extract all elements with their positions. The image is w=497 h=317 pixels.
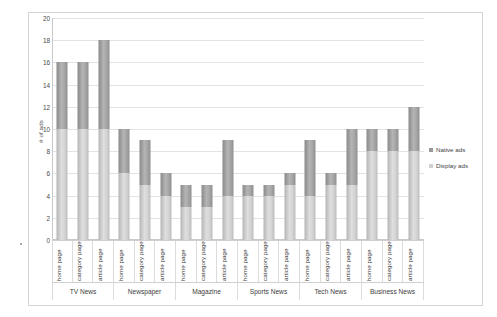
bar-slot (300, 18, 321, 240)
bar-segment-native-ads[interactable] (243, 185, 254, 196)
category-axis-label: home page (55, 250, 62, 281)
category-axis-cell: home page (52, 241, 73, 283)
bar-slot (197, 18, 218, 240)
bar-segment-display-ads[interactable] (346, 185, 357, 241)
bar-segment-display-ads[interactable] (387, 151, 398, 240)
legend-item-label: Native ads (436, 146, 465, 153)
bar-segment-display-ads[interactable] (325, 185, 336, 241)
bar-slot (383, 18, 404, 240)
bar-segment-native-ads[interactable] (263, 185, 274, 196)
category-axis-label: article page (406, 248, 413, 281)
legend-item-label: Display ads (436, 162, 468, 169)
category-axis-label: category page (137, 241, 144, 281)
group-axis-cell: Business News (362, 283, 424, 300)
category-axis-label: category page (199, 241, 206, 281)
category-axis-cell: category page (73, 241, 94, 283)
bar-segment-native-ads[interactable] (57, 62, 68, 129)
group-axis-label: Magazine (192, 288, 221, 295)
bar-segment-native-ads[interactable] (284, 173, 295, 184)
bars-layer (52, 18, 424, 240)
bar-segment-display-ads[interactable] (201, 207, 212, 240)
bar-slot (403, 18, 424, 240)
legend-swatch-icon (429, 148, 433, 152)
category-axis: home pagecategory pagearticle pagehome p… (52, 240, 424, 283)
bar-segment-display-ads[interactable] (98, 129, 109, 240)
y-axis-tick-18: 18 (43, 37, 50, 44)
plot-area (52, 18, 424, 240)
category-axis-cell: article page (341, 241, 362, 283)
bar-segment-display-ads[interactable] (77, 129, 88, 240)
group-axis-cell: Sports News (238, 283, 300, 300)
category-axis-label: article page (220, 248, 227, 281)
category-axis-label: home page (241, 250, 248, 281)
y-axis-tick-20: 20 (43, 15, 50, 22)
bar-segment-display-ads[interactable] (305, 196, 316, 240)
y-axis-tick-4: 4 (46, 192, 50, 199)
bar-segment-display-ads[interactable] (263, 196, 274, 240)
bar-segment-native-ads[interactable] (181, 185, 192, 207)
category-axis-label: home page (179, 250, 186, 281)
category-axis-cell: article page (279, 241, 300, 283)
category-axis-cell: home page (176, 241, 197, 283)
bar-segment-native-ads[interactable] (367, 129, 378, 151)
bar-segment-native-ads[interactable] (305, 140, 316, 196)
legend-item[interactable]: Display ads (429, 162, 489, 169)
chart-container: # of ads 02468101214161820 home pagecate… (0, 0, 497, 317)
category-axis-label: category page (261, 241, 268, 281)
bar-slot (73, 18, 94, 240)
category-axis-cell: home page (114, 241, 135, 283)
group-axis-label: Sports News (250, 288, 287, 295)
bar-segment-display-ads[interactable] (222, 196, 233, 240)
bar-segment-native-ads[interactable] (325, 173, 336, 184)
y-axis-tick-14: 14 (43, 81, 50, 88)
legend-item[interactable]: Native ads (429, 146, 489, 153)
bar-slot (341, 18, 362, 240)
bar-slot (238, 18, 259, 240)
category-axis-label: article page (158, 248, 165, 281)
group-axis-cell: TV News (52, 283, 114, 300)
bar-slot (279, 18, 300, 240)
bar-segment-display-ads[interactable] (284, 185, 295, 241)
category-axis-label: category page (385, 241, 392, 281)
y-axis-tick-12: 12 (43, 103, 50, 110)
bar-slot (259, 18, 280, 240)
bar-segment-native-ads[interactable] (160, 173, 171, 195)
bar-segment-display-ads[interactable] (367, 151, 378, 240)
category-axis-label: category page (323, 241, 330, 281)
bar-segment-native-ads[interactable] (77, 62, 88, 129)
origin-marker-dot (20, 243, 22, 245)
category-axis-cell: category page (197, 241, 218, 283)
bar-segment-native-ads[interactable] (387, 129, 398, 151)
bar-segment-native-ads[interactable] (139, 140, 150, 184)
bar-segment-display-ads[interactable] (139, 185, 150, 241)
category-axis-cell: category page (383, 241, 404, 283)
chart-legend: Native adsDisplay ads (429, 146, 489, 178)
category-axis-cell: article page (403, 241, 424, 283)
bar-segment-native-ads[interactable] (222, 140, 233, 196)
category-axis-cell: article page (155, 241, 176, 283)
bar-segment-display-ads[interactable] (57, 129, 68, 240)
category-axis-cell: category page (321, 241, 342, 283)
group-axis-cell: Tech News (300, 283, 362, 300)
bar-segment-native-ads[interactable] (346, 129, 357, 185)
category-axis-cell: category page (259, 241, 280, 283)
bar-slot (52, 18, 73, 240)
y-axis-tick-2: 2 (46, 214, 50, 221)
bar-slot (321, 18, 342, 240)
bar-segment-native-ads[interactable] (201, 185, 212, 207)
bar-segment-native-ads[interactable] (408, 107, 419, 151)
bar-segment-display-ads[interactable] (243, 196, 254, 240)
bar-segment-display-ads[interactable] (119, 173, 130, 240)
bar-segment-display-ads[interactable] (160, 196, 171, 240)
legend-swatch-icon (429, 164, 433, 168)
y-axis-tick-6: 6 (46, 170, 50, 177)
group-axis-cell: Newspaper (114, 283, 176, 300)
bar-segment-native-ads[interactable] (119, 129, 130, 173)
bar-slot (114, 18, 135, 240)
category-axis-label: home page (117, 250, 124, 281)
category-axis-label: article page (96, 248, 103, 281)
bar-segment-display-ads[interactable] (408, 151, 419, 240)
bar-slot (93, 18, 114, 240)
bar-segment-display-ads[interactable] (181, 207, 192, 240)
bar-segment-native-ads[interactable] (98, 40, 109, 129)
